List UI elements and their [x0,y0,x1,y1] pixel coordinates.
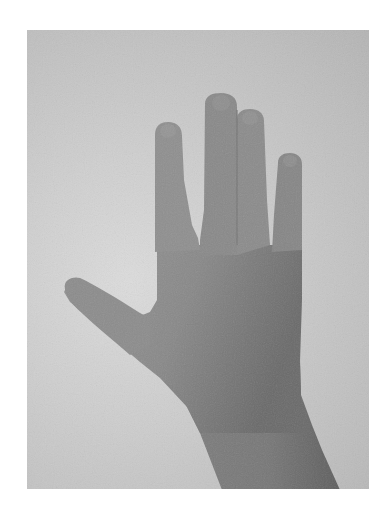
faint-scan-artifacts [0,495,391,515]
hand-illustration [27,30,369,489]
hand-photo [27,30,369,489]
